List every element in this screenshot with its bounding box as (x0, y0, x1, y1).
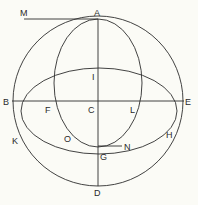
label-k: K (12, 136, 18, 146)
label-m: M (20, 8, 28, 18)
label-h: H (166, 130, 173, 140)
label-l: L (130, 105, 135, 115)
label-b: B (3, 97, 9, 107)
label-c: C (88, 105, 95, 115)
label-f: F (45, 105, 51, 115)
label-i: I (92, 72, 95, 82)
label-a: A (94, 8, 100, 18)
label-n: N (124, 142, 131, 152)
label-d: D (94, 188, 101, 198)
label-o: O (64, 134, 71, 144)
label-g: G (100, 152, 107, 162)
geometry-diagram: M A I B F C L E K O H G N D (0, 0, 198, 205)
label-e: E (185, 97, 191, 107)
